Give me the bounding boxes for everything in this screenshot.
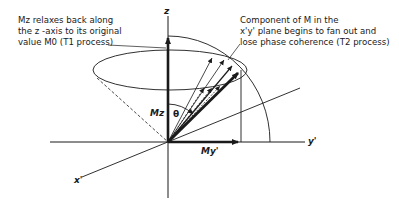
y-axis-label: y' (308, 136, 317, 146)
precession-ellipse (93, 50, 247, 90)
t1-line-3: value M0 (T1 process) (18, 37, 122, 48)
t2-annotation: Component of M in the x'y' plane begins … (240, 15, 390, 48)
my-label: My' (201, 146, 219, 156)
t2-line-1: Component of M in the (240, 15, 390, 26)
t2-line-2: x'y' plane begins to fan out and (240, 26, 390, 37)
fanning-vectors (168, 58, 232, 142)
t1-line-1: Mz relaxes back along (18, 15, 122, 26)
t1-annotation: Mz relaxes back along the z -axis to its… (18, 15, 122, 48)
t2-line-3: lose phase coherence (T2 process) (240, 37, 390, 48)
theta-arc (168, 104, 193, 114)
m-vector (168, 73, 238, 142)
x-axis-label: x' (74, 175, 83, 185)
x-axis (82, 88, 300, 177)
theta-label: θ (173, 109, 179, 119)
z-axis-label: z (164, 6, 169, 16)
mz-label: Mz (150, 108, 164, 118)
t1-line-2: the z -axis to its original (18, 26, 122, 37)
t2-leader-line (228, 44, 240, 60)
